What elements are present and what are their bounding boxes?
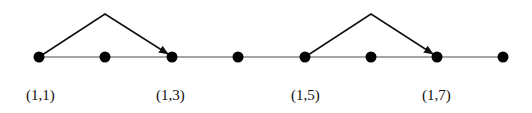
node-label-1-5: (1,5) xyxy=(291,87,320,104)
node-label-1-3: (1,3) xyxy=(156,87,185,104)
node-7 xyxy=(432,52,443,63)
node-5 xyxy=(300,52,311,63)
node-label-1-7: (1,7) xyxy=(422,87,451,104)
node-3 xyxy=(167,52,178,63)
node-6 xyxy=(366,52,377,63)
node-1 xyxy=(34,52,45,63)
jump-arrow-1 xyxy=(39,14,168,57)
node-4 xyxy=(233,52,244,63)
node-2 xyxy=(100,52,111,63)
node-8 xyxy=(498,52,509,63)
jump-arrow-2 xyxy=(305,14,433,57)
node-label-1-1: (1,1) xyxy=(26,87,55,104)
diagram-canvas: (1,1) (1,3) (1,5) (1,7) xyxy=(0,0,532,113)
lattice-diagram xyxy=(0,0,532,113)
arc-group xyxy=(39,14,433,57)
